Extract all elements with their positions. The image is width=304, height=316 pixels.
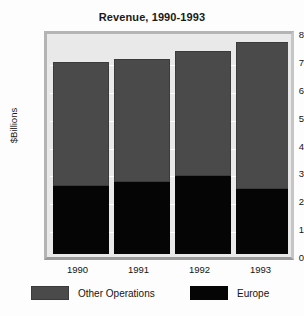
bar-segment-other-operations [236, 42, 289, 188]
x-tick-label: 1991 [111, 264, 167, 275]
x-tick-label: 1993 [233, 264, 289, 275]
bar-segment-europe [175, 176, 231, 254]
legend-label-europe: Europe [237, 288, 269, 299]
legend-label-other-operations: Other Operations [78, 288, 155, 299]
plot-inner [50, 37, 288, 254]
bar-segment-other-operations [114, 59, 170, 182]
bar-group [175, 37, 231, 254]
bar-group [114, 37, 170, 254]
x-tick-label: 1990 [50, 264, 106, 275]
bar-segment-other-operations [175, 51, 231, 176]
bar-group [236, 37, 289, 254]
legend-swatch-other-operations [31, 286, 69, 300]
x-tick-label: 1992 [172, 264, 228, 275]
legend-item-other-operations: Other Operations [31, 286, 155, 300]
revenue-bar-chart: Revenue, 1990-1993 $Billions 876543210 1… [0, 0, 304, 316]
chart-title: Revenue, 1990-1993 [0, 11, 304, 23]
bar-segment-europe [236, 189, 289, 255]
bar-segment-europe [53, 186, 109, 254]
bar-segment-other-operations [53, 62, 109, 186]
bar-segment-europe [114, 182, 170, 254]
legend-item-europe: Europe [190, 286, 269, 300]
legend-swatch-europe [190, 286, 228, 300]
chart-legend: Other Operations Europe [0, 286, 304, 306]
y-axis-title: $Billions [8, 91, 19, 161]
bar-group [53, 37, 109, 254]
plot-area [44, 31, 294, 260]
